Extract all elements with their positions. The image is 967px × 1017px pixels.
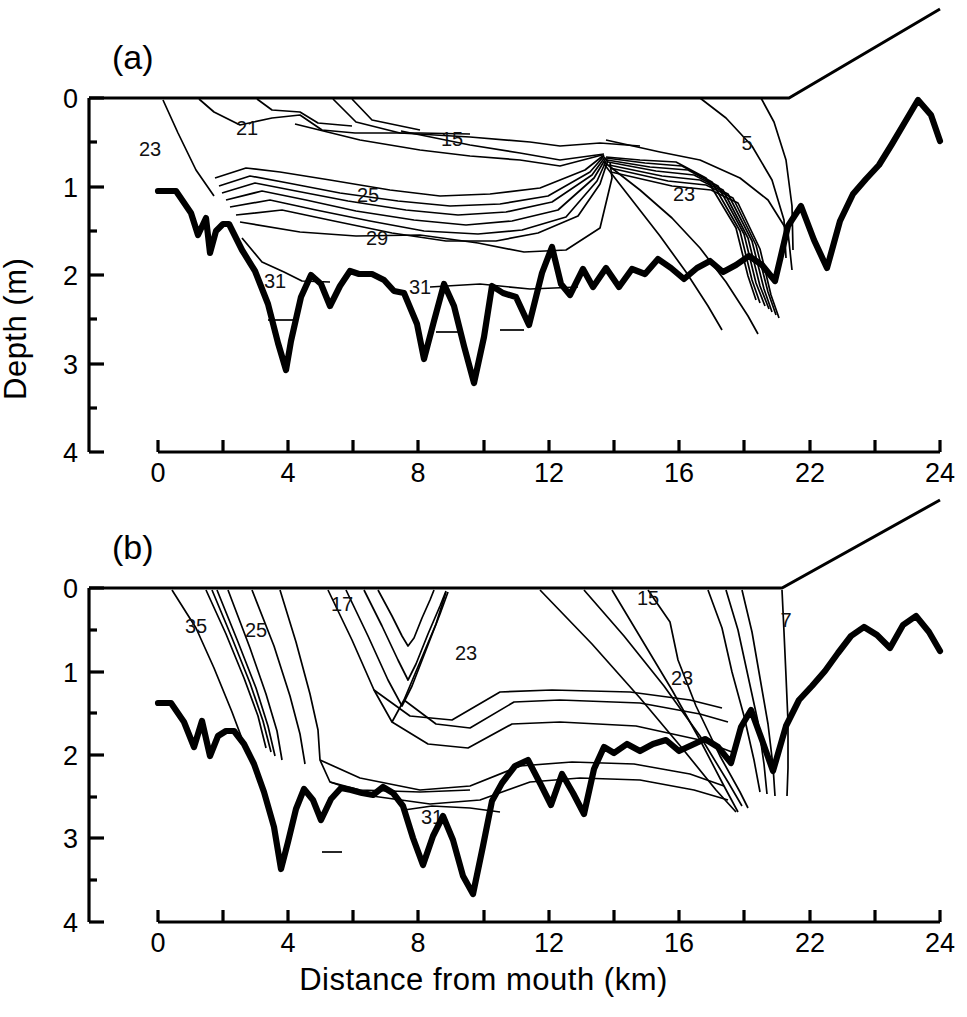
figure-canvas: 0 1 2 3 4 bbox=[0, 0, 967, 1017]
panel-b-label-7: 7 bbox=[780, 609, 791, 631]
panel-a-xtick-8: 8 bbox=[410, 458, 425, 488]
panel-a-bathymetry bbox=[158, 100, 940, 383]
panel-a-y-ticklabels: 0 1 2 3 4 bbox=[63, 84, 78, 468]
panel-b-xtick-0: 0 bbox=[150, 928, 165, 958]
panel-a-ytick-3: 3 bbox=[63, 350, 78, 380]
panel-b-xtick-4: 4 bbox=[280, 928, 295, 958]
panel-b-label-15: 15 bbox=[637, 587, 659, 609]
panel-a-label-21: 21 bbox=[236, 117, 258, 139]
panel-a-ytick-4: 4 bbox=[63, 438, 78, 468]
panel-b-label-25: 25 bbox=[245, 619, 267, 641]
panel-a-xtick-12: 12 bbox=[534, 458, 564, 488]
panel-b-ytick-0: 0 bbox=[63, 574, 78, 604]
panel-b-xtick-8: 8 bbox=[410, 928, 425, 958]
panel-a-label-31-right: 31 bbox=[409, 276, 431, 298]
panel-a-water-surface bbox=[89, 9, 940, 98]
panel-a-label-15: 15 bbox=[441, 128, 463, 150]
salinity-section-figure: Depth (m) Distance from mouth (km) (a) (… bbox=[0, 0, 967, 1017]
panel-b-ytick-4: 4 bbox=[63, 908, 78, 938]
panel-a-ytick-2: 2 bbox=[63, 261, 78, 291]
panel-b-xtick-12: 12 bbox=[534, 928, 564, 958]
panel-a-label-23-right: 23 bbox=[673, 183, 695, 205]
panel-b-y-ticklabels: 0 1 2 3 4 bbox=[63, 574, 78, 938]
panel-b-label-35: 35 bbox=[185, 615, 207, 637]
panel-b-ytick-2: 2 bbox=[63, 741, 78, 771]
panel-a-xtick-4: 4 bbox=[280, 458, 295, 488]
panel-a: 0 1 2 3 4 bbox=[63, 9, 955, 488]
panel-b-tag: (b) bbox=[112, 528, 154, 567]
panel-a-x-ticklabels: 0 4 8 12 16 22 24 bbox=[150, 458, 955, 488]
panel-a-ytick-1: 1 bbox=[63, 173, 78, 203]
panel-a-label-23-left: 23 bbox=[139, 138, 161, 160]
panel-a-xtick-24: 24 bbox=[925, 458, 955, 488]
panel-b-xtick-24: 24 bbox=[925, 928, 955, 958]
panel-a-label-31-left: 31 bbox=[264, 270, 286, 292]
panel-a-tag: (a) bbox=[112, 38, 154, 77]
panel-a-xtick-16: 16 bbox=[664, 458, 694, 488]
panel-b-ytick-1: 1 bbox=[63, 658, 78, 688]
panel-b-x-axis bbox=[158, 910, 940, 922]
panel-b-y-axis bbox=[89, 588, 104, 922]
panel-b-label-23-right: 23 bbox=[671, 667, 693, 689]
panel-b-xtick-16: 16 bbox=[664, 928, 694, 958]
panel-b-xtick-20: 22 bbox=[795, 928, 825, 958]
x-axis-title: Distance from mouth (km) bbox=[0, 962, 967, 998]
panel-a-x-axis bbox=[158, 440, 940, 452]
panel-a-label-5: 5 bbox=[741, 132, 752, 154]
panel-b: 0 1 2 3 4 bbox=[63, 500, 955, 958]
panel-a-xtick-20: 22 bbox=[795, 458, 825, 488]
panel-a-label-29: 29 bbox=[366, 227, 388, 249]
panel-a-ytick-0: 0 bbox=[63, 84, 78, 114]
panel-b-x-ticklabels: 0 4 8 12 16 22 24 bbox=[150, 928, 955, 958]
panel-a-y-axis bbox=[89, 98, 104, 452]
panel-a-label-25: 25 bbox=[357, 184, 379, 206]
panel-b-label-23-mid: 23 bbox=[455, 642, 477, 664]
panel-b-ytick-3: 3 bbox=[63, 824, 78, 854]
panel-a-xtick-0: 0 bbox=[150, 458, 165, 488]
panel-b-water-surface bbox=[89, 500, 940, 588]
panel-b-label-17: 17 bbox=[331, 593, 353, 615]
y-axis-title: Depth (m) bbox=[0, 258, 34, 400]
